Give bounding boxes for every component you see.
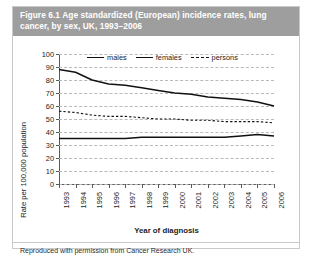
- x-tick-mark-1995: [92, 184, 93, 188]
- legend-item-males: males: [87, 53, 127, 62]
- x-tick-mark-2005: [257, 184, 258, 188]
- y-tick-label-100: 100: [42, 50, 54, 59]
- x-tick-label-1993: 1993: [62, 192, 71, 208]
- y-tick-label-0: 0: [50, 180, 54, 189]
- x-tick-label-1997: 1997: [128, 192, 137, 208]
- x-tick-mark-1996: [109, 184, 110, 188]
- legend-item-persons: persons: [191, 53, 238, 62]
- legend-line-males-icon: [87, 57, 104, 58]
- y-tick-label-80: 80: [46, 76, 54, 85]
- x-tick-mark-2000: [175, 184, 176, 188]
- legend-label-persons: persons: [212, 53, 238, 62]
- chart-axes: 0102030405060708090100 19931994199519961…: [59, 54, 274, 184]
- y-tick-label-50: 50: [46, 115, 54, 124]
- x-tick-mark-2001: [191, 184, 192, 188]
- x-tick-mark-2002: [208, 184, 209, 188]
- y-tick-label-70: 70: [46, 89, 54, 98]
- x-tick-label-1999: 1999: [161, 192, 170, 208]
- x-tick-label-1998: 1998: [145, 192, 154, 208]
- legend-line-persons-icon: [191, 57, 209, 58]
- x-tick-mark-1993: [59, 184, 60, 188]
- x-tick-mark-1994: [76, 184, 77, 188]
- y-tick-label-30: 30: [46, 141, 54, 150]
- y-tick-label-40: 40: [46, 128, 54, 137]
- x-tick-label-2000: 2000: [178, 192, 187, 208]
- legend-label-males: males: [107, 53, 127, 62]
- legend-label-females: females: [156, 53, 182, 62]
- x-tick-label-2005: 2005: [260, 192, 269, 208]
- chart-plot-area: Rate per 100,000 population males female…: [13, 36, 299, 242]
- x-tick-label-2004: 2004: [244, 192, 253, 208]
- x-tick-mark-1998: [142, 184, 143, 188]
- figure-source-note: Reproduced with permission from Cancer R…: [13, 243, 299, 254]
- x-axis-label: Year of diagnosis: [59, 226, 274, 235]
- x-tick-label-2002: 2002: [211, 192, 220, 208]
- legend-line-females-icon: [136, 57, 153, 58]
- chart-series-lines: [59, 54, 274, 184]
- y-tick-label-10: 10: [46, 167, 54, 176]
- x-tick-label-1996: 1996: [112, 192, 121, 208]
- x-tick-label-2003: 2003: [227, 192, 236, 208]
- legend-item-females: females: [136, 53, 182, 62]
- figure-container: Figure 6.1 Age standardized (European) i…: [12, 6, 300, 249]
- y-tick-label-90: 90: [46, 63, 54, 72]
- y-tick-label-20: 20: [46, 154, 54, 163]
- x-tick-mark-2004: [241, 184, 242, 188]
- x-tick-mark-1999: [158, 184, 159, 188]
- chart-legend: males females persons: [87, 53, 238, 62]
- y-axis-label: Rate per 100,000 population: [19, 122, 28, 218]
- x-tick-label-1994: 1994: [79, 192, 88, 208]
- x-tick-label-1995: 1995: [95, 192, 104, 208]
- x-tick-label-2001: 2001: [194, 192, 203, 208]
- x-tick-mark-2003: [224, 184, 225, 188]
- figure-caption: Figure 6.1 Age standardized (European) i…: [13, 7, 299, 36]
- series-line-males: [59, 70, 274, 106]
- series-line-persons: [59, 112, 274, 124]
- series-line-females: [59, 135, 274, 139]
- x-tick-label-2006: 2006: [277, 192, 286, 208]
- x-tick-mark-1997: [125, 184, 126, 188]
- x-tick-mark-2006: [274, 184, 275, 188]
- y-tick-label-60: 60: [46, 102, 54, 111]
